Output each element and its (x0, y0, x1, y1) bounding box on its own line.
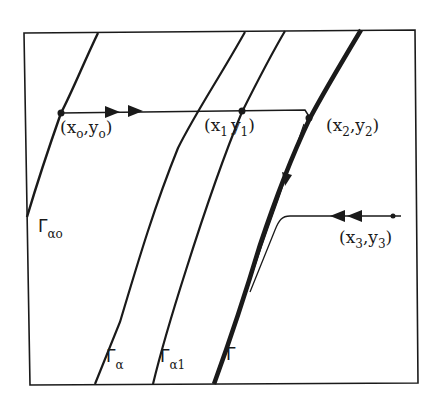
label-gamma-alpha: Γα (106, 346, 124, 372)
point-p0 (58, 110, 65, 117)
label-p1: (x1y1) (204, 115, 255, 139)
label-p3: (x3,y3) (339, 227, 392, 251)
point-p1 (239, 108, 246, 115)
curve-gamma-alpha1 (153, 31, 285, 384)
label-gamma-alpha1: Γα1 (160, 346, 185, 372)
arrow-left-icon (330, 210, 345, 222)
trajectory-along-gamma (247, 124, 304, 290)
point-p2 (306, 115, 313, 122)
curve-gamma-alpha (95, 32, 245, 384)
phase-diagram: (xo,yo) (x1y1) (x2,y2) (x3,y3) Γαo Γα Γα… (0, 0, 435, 403)
label-p0: (xo,yo) (60, 117, 112, 141)
arrow-right-icon (128, 105, 143, 117)
point-p3 (391, 214, 396, 219)
label-p2: (x2,y2) (326, 115, 379, 139)
label-gamma-alpha0: Γαo (38, 216, 63, 241)
arrow-left-icon (347, 210, 362, 222)
trajectory-lower (250, 216, 401, 292)
label-gamma: Γ (226, 344, 236, 364)
diagram-frame (24, 30, 418, 385)
curve-gamma (214, 30, 361, 384)
